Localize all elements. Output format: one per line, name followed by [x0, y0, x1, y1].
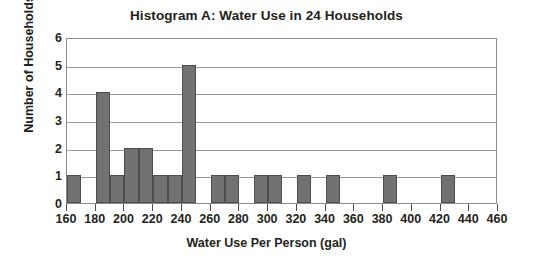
y-tick-label-0: 0 [30, 197, 62, 211]
y-tick-label-1: 1 [30, 169, 62, 183]
histogram-bar [110, 175, 124, 203]
histogram-bar [441, 175, 455, 203]
histogram-bar [139, 148, 153, 203]
y-tick-label-4: 4 [30, 86, 62, 100]
x-tick-320 [296, 204, 297, 211]
histogram-bar [268, 175, 282, 203]
histogram-bar [153, 175, 167, 203]
histogram-bar [168, 175, 182, 203]
x-tick-280 [238, 204, 239, 211]
histogram-bar [383, 175, 397, 203]
x-tick-label-300: 300 [257, 212, 278, 226]
x-axis-title: Water Use Per Person (gal) [0, 236, 533, 250]
x-tick-label-360: 360 [343, 212, 364, 226]
x-tick-260 [210, 204, 211, 211]
x-tick-label-280: 280 [228, 212, 249, 226]
y-axis-tick-labels: 0123456 [30, 38, 62, 204]
y-tick-label-2: 2 [30, 142, 62, 156]
histogram-figure: Histogram A: Water Use in 24 Households … [0, 0, 533, 267]
x-tick-420 [440, 204, 441, 211]
x-tick-label-400: 400 [400, 212, 421, 226]
histogram-bar [96, 92, 110, 203]
histogram-bar [211, 175, 225, 203]
histogram-bar [124, 148, 138, 203]
plot-area [66, 38, 497, 204]
x-tick-460 [497, 204, 498, 211]
x-tick-220 [152, 204, 153, 211]
x-tick-440 [468, 204, 469, 211]
chart-title: Histogram A: Water Use in 24 Households [0, 8, 533, 23]
x-tick-label-380: 380 [372, 212, 393, 226]
x-tick-200 [123, 204, 124, 211]
x-tick-380 [382, 204, 383, 211]
x-axis-tick-labels: 1601802002202402602803003203403603804004… [66, 212, 497, 228]
x-tick-400 [411, 204, 412, 211]
x-tick-label-340: 340 [314, 212, 335, 226]
bar-series [67, 39, 496, 203]
x-tick-label-200: 200 [113, 212, 134, 226]
x-tick-240 [181, 204, 182, 211]
x-tick-label-420: 420 [429, 212, 450, 226]
x-tick-340 [325, 204, 326, 211]
y-tick-label-5: 5 [30, 59, 62, 73]
histogram-bar [297, 175, 311, 203]
x-axis-ticks [66, 204, 497, 211]
x-tick-360 [353, 204, 354, 211]
x-tick-label-460: 460 [487, 212, 508, 226]
x-tick-label-220: 220 [142, 212, 163, 226]
x-tick-label-160: 160 [56, 212, 77, 226]
x-tick-label-180: 180 [84, 212, 105, 226]
x-tick-label-320: 320 [285, 212, 306, 226]
histogram-bar [182, 65, 196, 203]
x-tick-label-440: 440 [458, 212, 479, 226]
x-tick-160 [66, 204, 67, 211]
x-tick-label-240: 240 [170, 212, 191, 226]
y-tick-label-6: 6 [30, 31, 62, 45]
histogram-bar [326, 175, 340, 203]
histogram-bar [225, 175, 239, 203]
y-tick-label-3: 3 [30, 114, 62, 128]
x-tick-300 [267, 204, 268, 211]
histogram-bar [254, 175, 268, 203]
x-tick-label-260: 260 [199, 212, 220, 226]
histogram-bar [67, 175, 81, 203]
x-tick-180 [95, 204, 96, 211]
